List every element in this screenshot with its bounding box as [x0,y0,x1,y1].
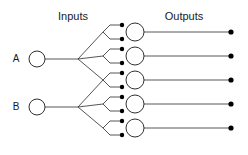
output-terminal-2[interactable] [228,53,233,58]
outputs-header-label: Outputs [165,10,204,22]
wire-subfan-5-down [103,128,110,135]
wire-subfan-3-down [103,80,110,87]
network-diagram: Inputs Outputs A B [0,0,248,155]
synapse-dot-2-bottom [120,61,124,65]
synapse-dot-5-top [120,119,124,123]
diagram-canvas: Inputs Outputs A B [0,0,248,155]
wire-a-branch-3 [78,59,103,80]
wire-a-branch-1 [78,32,103,59]
hidden-node-2[interactable] [126,47,144,65]
synapse-dot-1-bottom [120,37,124,41]
wire-subfan-4-down [103,104,110,111]
hidden-node-4[interactable] [126,95,144,113]
output-terminal-4[interactable] [228,101,233,106]
wire-subfan-2-up [103,49,110,56]
inputs-header-label: Inputs [58,10,88,22]
wire-b-branch-1 [78,80,103,107]
synapse-dot-2-top [120,47,124,51]
synapse-dot-5-bottom [120,133,124,137]
synapse-dot-3-top [120,71,124,75]
input-node-label-b: B [13,101,20,112]
wire-subfan-2-down [103,56,110,63]
input-node-b[interactable] [29,99,45,115]
hidden-node-5[interactable] [126,119,144,137]
synapse-dot-4-top [120,95,124,99]
wire-b-branch-3 [78,107,103,128]
input-node-label-a: A [13,53,20,64]
wire-subfan-3-up [103,73,110,80]
wire-subfan-4-up [103,97,110,104]
synapse-dot-3-bottom [120,85,124,89]
output-terminal-5[interactable] [228,125,233,130]
synapse-dot-1-top [120,23,124,27]
wire-a-branch-2 [78,56,103,59]
output-terminal-3[interactable] [228,77,233,82]
wire-b-branch-2 [78,104,103,107]
synapse-dot-4-bottom [120,109,124,113]
output-terminal-1[interactable] [228,29,233,34]
wire-subfan-5-up [103,121,110,128]
hidden-node-1[interactable] [126,23,144,41]
hidden-node-3[interactable] [126,71,144,89]
wire-subfan-1-up [103,25,110,32]
wire-subfan-1-down [103,32,110,39]
input-node-a[interactable] [29,51,45,67]
